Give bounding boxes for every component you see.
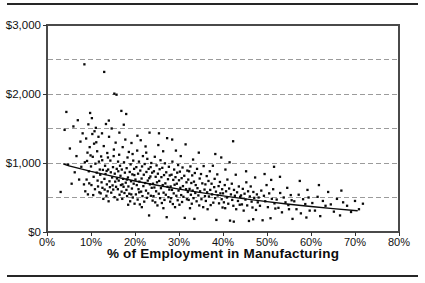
data-point — [93, 143, 95, 145]
data-point — [107, 168, 109, 170]
data-point — [362, 203, 364, 205]
data-point — [212, 165, 214, 167]
data-point — [92, 176, 94, 178]
data-point — [277, 207, 279, 209]
data-point — [281, 211, 283, 213]
data-point — [279, 176, 281, 178]
data-point — [127, 204, 129, 206]
data-point — [102, 169, 104, 171]
data-point — [143, 200, 145, 202]
data-point — [181, 201, 183, 203]
data-point — [97, 136, 99, 138]
data-point — [116, 198, 118, 200]
data-point — [118, 131, 120, 133]
data-point — [176, 172, 178, 174]
data-point — [190, 194, 192, 196]
data-point — [236, 191, 238, 193]
data-point — [98, 160, 100, 162]
data-point — [131, 187, 133, 189]
data-point — [162, 150, 164, 152]
data-point — [184, 143, 186, 145]
data-point — [157, 173, 159, 175]
data-point — [84, 161, 86, 163]
data-point — [79, 140, 81, 142]
data-point — [173, 192, 175, 194]
data-point — [113, 148, 115, 150]
data-point — [81, 132, 83, 134]
data-point — [95, 127, 97, 129]
data-point — [119, 175, 121, 177]
data-point — [168, 188, 170, 190]
data-point — [117, 160, 119, 162]
data-point — [84, 190, 86, 192]
data-point — [333, 210, 335, 212]
data-point — [158, 132, 160, 134]
data-point — [138, 191, 140, 193]
data-point — [265, 184, 267, 186]
data-point — [290, 199, 292, 201]
data-point — [250, 185, 252, 187]
data-point — [155, 176, 157, 178]
data-point — [336, 198, 338, 200]
data-point — [229, 219, 231, 221]
data-point — [272, 188, 274, 190]
data-point — [240, 194, 242, 196]
data-point — [89, 146, 91, 148]
data-point — [131, 173, 133, 175]
data-point — [242, 188, 244, 190]
data-point — [221, 198, 223, 200]
data-point — [141, 165, 143, 167]
data-point — [90, 184, 92, 186]
data-point — [233, 221, 235, 223]
data-point — [80, 166, 82, 168]
data-point — [283, 196, 285, 198]
data-point — [177, 199, 179, 201]
data-point — [121, 183, 123, 185]
data-point — [252, 218, 254, 220]
data-point — [93, 130, 95, 132]
data-point — [78, 178, 80, 180]
data-point — [181, 166, 183, 168]
data-point — [145, 189, 147, 191]
data-point — [103, 145, 105, 147]
data-point — [92, 156, 94, 158]
data-point — [132, 159, 134, 161]
data-point — [88, 182, 90, 184]
data-point — [123, 124, 125, 126]
data-point — [173, 168, 175, 170]
data-point — [178, 179, 180, 181]
data-point — [307, 196, 309, 198]
data-point — [129, 200, 131, 202]
data-point — [149, 175, 151, 177]
data-point — [166, 137, 168, 139]
data-point — [164, 182, 166, 184]
data-point — [103, 71, 105, 73]
data-point — [151, 187, 153, 189]
data-point — [204, 195, 206, 197]
x-axis-title: % of Employment in Manufacturing — [47, 246, 399, 261]
data-point — [193, 180, 195, 182]
data-point — [290, 194, 292, 196]
data-point — [95, 141, 97, 143]
data-point — [172, 203, 174, 205]
data-point — [200, 173, 202, 175]
data-point — [109, 186, 111, 188]
data-point — [273, 166, 275, 168]
data-point — [140, 139, 142, 141]
data-point — [191, 203, 193, 205]
data-point — [127, 185, 129, 187]
data-point — [125, 113, 127, 115]
data-point — [224, 207, 226, 209]
data-point — [94, 188, 96, 190]
data-point — [346, 205, 348, 207]
data-point — [139, 169, 141, 171]
data-point — [263, 173, 265, 175]
data-point — [311, 202, 313, 204]
data-point — [163, 174, 165, 176]
figure: $0$1,000$2,000$3,0000%10%20%30%40%50%60%… — [0, 0, 425, 283]
data-point — [254, 176, 256, 178]
data-point — [230, 193, 232, 195]
data-point — [180, 177, 182, 179]
data-point — [121, 198, 123, 200]
data-point — [103, 178, 105, 180]
